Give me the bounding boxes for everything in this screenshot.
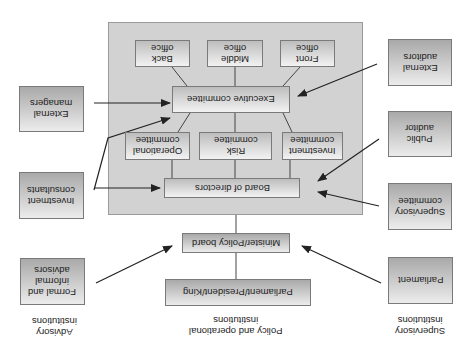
- risk-committee-box: Risk committee: [199, 132, 272, 160]
- connector-exec-operational: [178, 113, 190, 132]
- operational-committee-label: Operational committee: [133, 135, 182, 157]
- supervisory-committee-label: Supervisory committee: [395, 196, 445, 218]
- formal-informal-advisors-box: Formal and informal advisors: [20, 258, 85, 305]
- policy-institutions-label: Policy and operational institutions: [176, 313, 296, 339]
- parliament-label: Parliament: [398, 275, 443, 286]
- minister-policy-board-box: Minister/Policy board: [182, 233, 290, 253]
- risk-committee-label: Risk committee: [214, 135, 258, 157]
- parliament-president-king-label: Parliament/President/King: [183, 287, 293, 298]
- arrow-supervisory-committee: [318, 192, 379, 206]
- board-of-directors-label: Board of directors: [195, 183, 270, 194]
- executive-committee-box: Executive committee: [172, 86, 290, 113]
- external-auditors-box: External auditors: [388, 39, 452, 86]
- investment-committee-box: Investment committee: [282, 132, 343, 160]
- external-managers-box: External managers: [19, 86, 84, 132]
- formal-informal-advisors-label: Formal and informal advisors: [28, 265, 76, 298]
- parliament-president-king-box: Parliament/President/King: [165, 279, 311, 306]
- investment-consultants-box: Investment consultants: [19, 172, 84, 219]
- back-office-label: Back office: [151, 43, 174, 65]
- public-auditor-box: Public auditor: [388, 111, 452, 157]
- front-office-label: Front office: [296, 43, 319, 65]
- arrow-parliament-minister: [302, 246, 381, 283]
- executive-committee-label: Executive committee: [187, 94, 275, 105]
- arrow-external-auditors: [298, 64, 377, 96]
- investment-consultants-label: Investment consultants: [27, 185, 75, 207]
- connector-back-office: [172, 67, 187, 86]
- arrow-advisors-minister: [96, 246, 172, 283]
- front-office-box: Front office: [280, 40, 335, 67]
- back-office-box: Back office: [135, 40, 190, 67]
- middle-office-label: Middle office: [221, 43, 249, 65]
- external-auditors-label: External auditors: [403, 52, 438, 74]
- parliament-box: Parliament: [388, 257, 453, 304]
- public-auditor-label: Public auditor: [405, 123, 434, 145]
- external-managers-label: External managers: [30, 98, 72, 120]
- connector-exec-investment: [283, 113, 292, 132]
- investment-committee-label: Investment committee: [289, 135, 335, 157]
- governance-diagram: Back office Middle office Front office E…: [0, 0, 469, 352]
- middle-office-box: Middle office: [207, 40, 263, 67]
- connector-front-office: [283, 67, 300, 86]
- operational-committee-box: Operational committee: [125, 132, 190, 160]
- supervisory-institutions-label: Supervisory institutions: [380, 313, 460, 339]
- advisory-institutions-label: Advisory institutions: [14, 314, 94, 340]
- minister-policy-board-label: Minister/Policy board: [192, 238, 280, 249]
- board-of-directors-box: Board of directors: [164, 178, 300, 198]
- supervisory-committee-box: Supervisory committee: [388, 183, 452, 230]
